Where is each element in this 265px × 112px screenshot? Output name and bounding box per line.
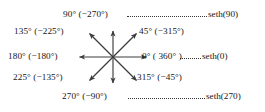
arrow-45deg [113,34,137,58]
arrow-225deg [90,57,114,81]
arrow-315deg [113,57,137,81]
callout-seth-0: seth(0) [202,52,228,61]
angle-label-315deg: 315° (−45°) [137,73,182,82]
angle-label-135deg: 135° (−225°) [14,27,64,36]
leader-line-seth90 [127,16,207,18]
callout-seth-90: seth(90) [208,10,238,19]
angle-label-45deg: 45° (−315°) [139,27,184,36]
angle-direction-diagram: 90° (−270°) 135° (−225°) 45° (−315°) 180… [0,0,265,112]
angle-label-270deg: 270° (−90°) [62,92,107,101]
angle-label-180deg: 180° (−180°) [8,52,58,61]
leader-line-seth270 [128,98,205,100]
leader-line-seth0 [180,58,201,60]
callout-seth-270: seth(270) [206,92,241,101]
angle-label-225deg: 225° (−135°) [13,73,63,82]
angle-label-0deg: 0° ( 360° ) [142,52,182,61]
angle-label-90deg: 90° (−270°) [63,10,108,19]
arrow-135deg [90,34,114,58]
